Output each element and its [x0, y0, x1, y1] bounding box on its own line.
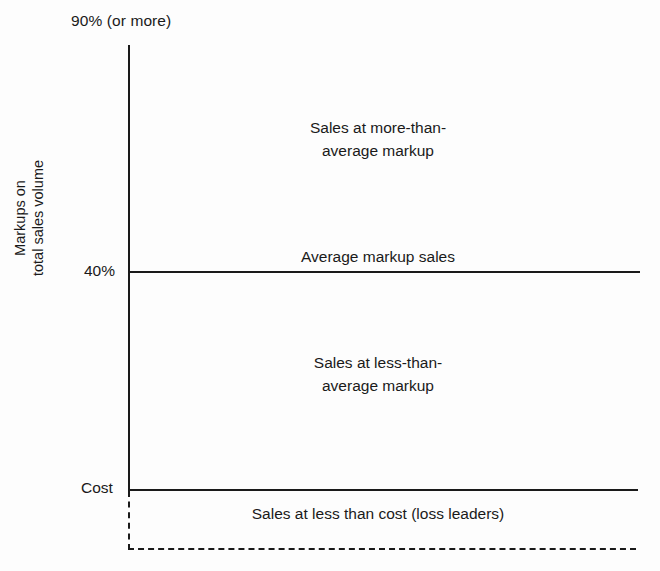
- band-label-average-markup: Average markup sales: [253, 245, 503, 268]
- y-tick-label-cost: Cost: [81, 479, 113, 497]
- band-label-above-average-markup-line-1: Sales at more-than-: [253, 116, 503, 139]
- y-tick-label-40-percent: 40%: [84, 262, 115, 280]
- y-axis-line: [128, 45, 130, 491]
- y-axis-title-line-2: total sales volume: [29, 138, 47, 298]
- divider-line-40-percent: [128, 271, 640, 273]
- band-label-above-average-markup-line-2: average markup: [253, 139, 503, 162]
- band-label-average-markup-line-1: Average markup sales: [253, 245, 503, 268]
- band-label-above-average-markup: Sales at more-than- average markup: [253, 116, 503, 162]
- band-label-below-cost: Sales at less than cost (loss leaders): [178, 502, 578, 525]
- y-axis-title-line-1: Markups on: [11, 138, 29, 298]
- y-axis-title: Markups on total sales volume: [11, 138, 47, 298]
- band-label-below-average-markup-line-2: average markup: [253, 374, 503, 397]
- markup-bands-chart: Markups on total sales volume 90% (or mo…: [0, 0, 660, 571]
- band-label-below-cost-line-1: Sales at less than cost (loss leaders): [178, 502, 578, 525]
- x-axis-baseline-dashed: [128, 548, 636, 550]
- band-label-below-average-markup: Sales at less-than- average markup: [253, 351, 503, 397]
- y-axis-line-dashed-extension: [128, 491, 130, 550]
- divider-line-cost: [128, 489, 638, 491]
- band-label-below-average-markup-line-1: Sales at less-than-: [253, 351, 503, 374]
- y-tick-label-90-percent: 90% (or more): [71, 12, 171, 30]
